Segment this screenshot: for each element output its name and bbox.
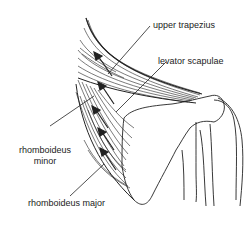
scapula <box>122 95 224 204</box>
shoulder-illustration <box>0 0 252 226</box>
label-rhomboideus-minor-line1: rhomboideus <box>12 145 78 155</box>
anatomy-diagram: upper trapezius levator scapulae rhomboi… <box>0 0 252 226</box>
label-rhomboideus-major: rhomboideus major <box>28 198 105 208</box>
label-upper-trapezius: upper trapezius <box>153 20 215 30</box>
humerus <box>200 98 243 206</box>
label-levator-scapulae: levator scapulae <box>158 56 224 66</box>
label-rhomboideus-minor-line2: minor <box>12 156 78 166</box>
